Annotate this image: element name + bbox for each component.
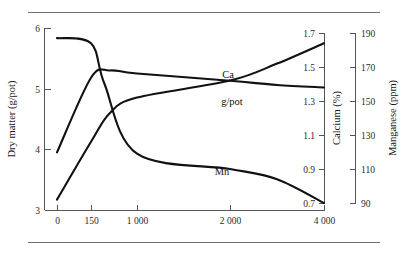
x-axis-tick-labels: 01501 0002 0004 000: [55, 216, 335, 226]
left-axis-ticks: [45, 29, 51, 211]
x-axis-tick-label: 0: [55, 216, 60, 226]
calcium-axis-tick-label: 1.5: [303, 63, 315, 73]
left-axis-dry-matter: 3456 Dry matter (g/pot): [6, 24, 51, 216]
calcium-axis-ticks: [319, 34, 325, 204]
manganese-axis-tick-label: 150: [361, 97, 376, 107]
x-axis-ticks: [58, 205, 325, 211]
curve-ca: [57, 43, 324, 199]
series-curves: [57, 38, 324, 203]
right-axis-manganese: 90110130150170190 Manganese (ppm): [350, 29, 400, 209]
left-axis-tick-label: 4: [35, 145, 40, 155]
x-axis-tick-label: 4 000: [314, 216, 336, 226]
left-axis-tick-label: 6: [35, 24, 40, 34]
left-axis-tick-label: 3: [35, 206, 40, 216]
manganese-axis-tick-label: 190: [361, 29, 376, 39]
right-axis-calcium: 0.70.91.11.31.51.7 Calcium (%): [303, 29, 343, 209]
calcium-axis-tick-label: 0.7: [303, 199, 315, 209]
calcium-axis-tick-label: 1.3: [303, 97, 315, 107]
calcium-axis-title: Calcium (%): [331, 91, 343, 145]
curve-gpot: [57, 69, 324, 152]
calcium-axis-tick-label: 1.1: [303, 131, 315, 141]
manganese-axis-title: Manganese (ppm): [387, 79, 399, 156]
left-axis-tick-label: 5: [35, 85, 40, 95]
x-axis-tick-label: 2 000: [220, 216, 242, 226]
x-axis: 01501 0002 0004 000: [45, 205, 336, 227]
figure-top-rule: [28, 12, 380, 13]
multi-axis-line-chart: 3456 Dry matter (g/pot) 01501 0002 0004 …: [0, 0, 406, 258]
manganese-axis-tick-labels: 90110130150170190: [361, 29, 376, 209]
calcium-axis-tick-label: 1.7: [303, 29, 315, 39]
manganese-axis-tick-label: 170: [361, 63, 376, 73]
curve-mn: [57, 38, 324, 203]
figure-bottom-rule: [28, 242, 380, 243]
manganese-axis-tick-label: 130: [361, 131, 376, 141]
curve-label-g-pot: g/pot: [221, 96, 243, 107]
x-axis-tick-label: 1 000: [127, 216, 149, 226]
figure-container: 3456 Dry matter (g/pot) 01501 0002 0004 …: [0, 0, 406, 258]
manganese-axis-ticks: [350, 34, 356, 204]
curve-label-ca: Ca: [222, 69, 234, 80]
curve-label-mn: Mn: [215, 166, 230, 177]
manganese-axis-tick-label: 110: [361, 165, 375, 175]
curve-label-group: Cag/potMn: [215, 69, 243, 177]
left-axis-tick-labels: 3456: [35, 24, 40, 216]
x-axis-tick-label: 150: [84, 216, 99, 226]
left-axis-title: Dry matter (g/pot): [6, 80, 18, 157]
calcium-axis-tick-labels: 0.70.91.11.31.51.7: [303, 29, 315, 209]
manganese-axis-tick-label: 90: [361, 199, 371, 209]
calcium-axis-tick-label: 0.9: [303, 165, 315, 175]
